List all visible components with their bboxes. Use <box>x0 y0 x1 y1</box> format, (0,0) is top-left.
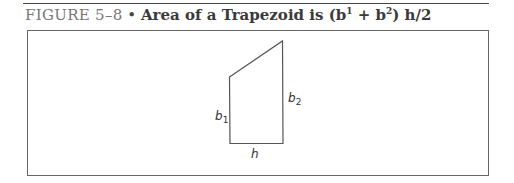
label-b2: b2 <box>288 91 301 107</box>
label-b2-sub: 2 <box>296 97 302 107</box>
label-b1-sub: 1 <box>223 115 229 125</box>
trapezoid-shape <box>230 41 284 144</box>
label-b1: b1 <box>215 109 228 125</box>
label-b1-base: b <box>215 109 223 123</box>
label-b2-base: b <box>288 91 296 105</box>
label-h: h <box>251 147 259 161</box>
